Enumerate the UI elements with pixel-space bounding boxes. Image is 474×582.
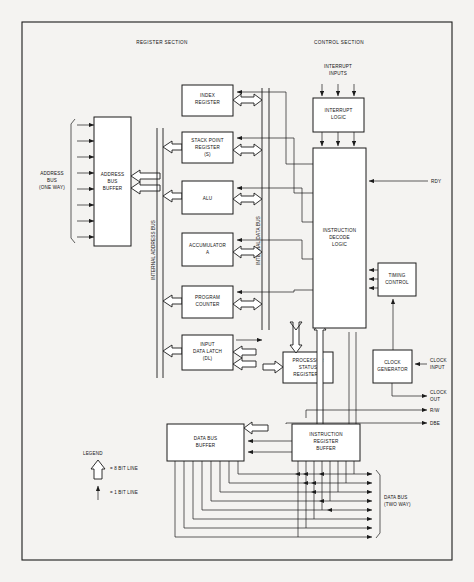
block-decode-logic-line-2: DECODE: [329, 235, 350, 240]
data-bus-port-label-1: DATA BUS: [384, 495, 407, 500]
block-timing-control-line-1: TIMING: [388, 273, 405, 278]
dbe-label: DBE: [430, 421, 440, 426]
block-input-data-latch-line-1: INPUT: [200, 342, 215, 347]
clock-out-label-2: OUT: [430, 397, 440, 402]
interrupt-inputs-label-1: INTERRUPT: [324, 64, 352, 69]
block-diagram: REGISTER SECTION CONTROL SECTION ADDRESS…: [0, 0, 474, 582]
legend-title: LEGEND: [83, 451, 103, 456]
section-title-control: CONTROL SECTION: [314, 40, 364, 45]
block-data-bus-buffer-line-1: DATA BUS: [194, 436, 217, 441]
block-decode-logic-line-3: LOGIC: [332, 242, 348, 247]
data-bus-port-label-2: (TWO WAY): [384, 502, 411, 507]
block-clock-generator-line-1: CLOCK: [384, 360, 401, 365]
address-bus-port-label-1: ADDRESS: [40, 171, 63, 176]
block-address-bus-buffer-line-3: BUFFER: [103, 186, 123, 191]
section-title-register: REGISTER SECTION: [136, 40, 188, 45]
block-interrupt-logic-line-1: INTERRUPT: [325, 108, 353, 113]
block-index-register-line-2: REGISTER: [195, 100, 220, 105]
block-index-register-line-1: INDEX: [200, 93, 215, 98]
address-bus-port-label-3: (ONE WAY): [39, 185, 65, 190]
block-address-bus-buffer-line-2: BUS: [108, 179, 118, 184]
block-input-data-latch-line-2: DATA LATCH: [193, 349, 222, 354]
block-program-counter-line-1: PROGRAM: [195, 295, 220, 300]
block-timing-control-line-2: CONTROL: [385, 280, 409, 285]
block-stack-point-register-line-2: REGISTER: [195, 145, 220, 150]
block-program-counter-line-2: COUNTER: [196, 302, 220, 307]
block-accumulator-a-line-1: ACCUMULATOR: [189, 243, 227, 248]
block-ir-buffer-line-1: INSTRUCTION: [309, 432, 342, 437]
block-input-data-latch-line-3: (DL): [203, 356, 213, 361]
block-decode-logic-line-1: INSTRUCTION: [323, 228, 356, 233]
block-stack-point-register-line-3: (S): [204, 152, 211, 157]
block-ir-buffer-line-2: REGISTER: [314, 439, 339, 444]
block-interrupt-logic-line-2: LOGIC: [331, 115, 347, 120]
rdy-label: RDY: [431, 179, 441, 184]
interrupt-inputs-label-2: INPUTS: [329, 71, 347, 76]
address-bus-port-label-2: BUS: [47, 178, 57, 183]
block-processor-status-line-2: STATUS: [299, 365, 318, 370]
clock-input-label-1: CLOCK: [430, 358, 447, 363]
block-data-bus-buffer-line-2: BUFFER: [196, 443, 216, 448]
legend-entry-1bit-label: = 1 BIT LINE: [110, 490, 138, 495]
diagram-page: REGISTER SECTION CONTROL SECTION ADDRESS…: [0, 0, 474, 582]
clock-input-label-2: INPUT: [430, 365, 445, 370]
internal-data-bus-label: INTERNAL DATA BUS: [256, 216, 261, 265]
read-write-label: R/W: [430, 408, 440, 413]
block-stack-point-register-line-1: STACK POINT: [191, 138, 223, 143]
block-ir-buffer-line-3: BUFFER: [316, 446, 336, 451]
clock-out-label-1: CLOCK: [430, 390, 447, 395]
block-clock-generator-line-2: GENERATOR: [377, 367, 408, 372]
internal-address-bus-label: INTERNAL ADDRESS BUS: [151, 220, 156, 280]
legend-entry-8bit-label: = 8 BIT LINE: [110, 466, 138, 471]
block-alu-line-1: ALU: [203, 196, 212, 201]
block-address-bus-buffer-line-1: ADDRESS: [101, 172, 124, 177]
